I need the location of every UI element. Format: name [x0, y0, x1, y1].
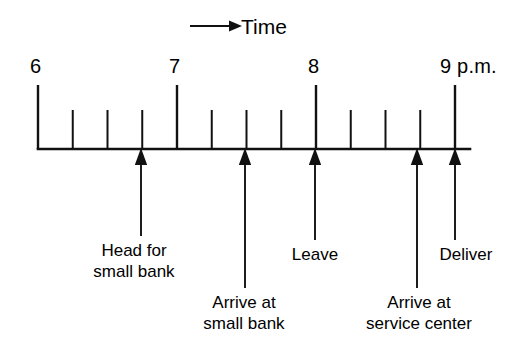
event-arrowhead-leave [309, 148, 321, 165]
event-label-line: Deliver [440, 244, 493, 265]
event-arrowhead-deliver [449, 148, 461, 165]
event-label-line: Leave [292, 244, 338, 265]
event-label-line: Arrive at [366, 292, 472, 313]
event-label-arrive-at-small-bank: Arrive atsmall bank [203, 292, 284, 334]
event-label-line: Head for [93, 240, 174, 261]
event-label-line: small bank [203, 313, 284, 334]
event-label-line: small bank [93, 261, 174, 282]
event-label-line: service center [366, 313, 472, 334]
hour-label-9pm: 9 p.m. [440, 56, 497, 76]
event-arrowhead-head-for-small-bank [135, 148, 147, 165]
event-arrowhead-arrive-at-service-center [411, 148, 423, 165]
event-arrowhead-arrive-at-small-bank [239, 148, 251, 165]
event-label-arrive-at-service-center: Arrive atservice center [366, 292, 472, 334]
event-label-head-for-small-bank: Head forsmall bank [93, 240, 174, 282]
time-caption: Time [241, 16, 287, 37]
event-label-line: Arrive at [203, 292, 284, 313]
timeline-figure: 6789 p.m.Head forsmall bankArrive atsmal… [0, 0, 532, 354]
hour-label-6: 6 [30, 56, 41, 76]
event-label-deliver: Deliver [440, 244, 493, 265]
hour-label-8: 8 [308, 56, 319, 76]
event-label-leave: Leave [292, 244, 338, 265]
hour-label-7: 7 [169, 56, 180, 76]
